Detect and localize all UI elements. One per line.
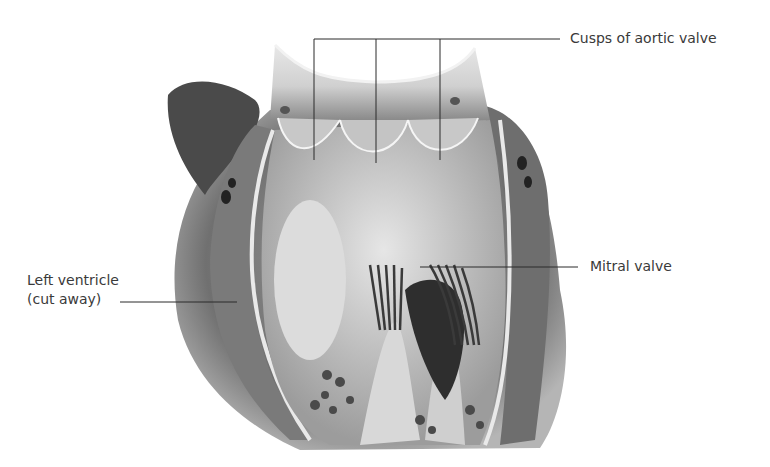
heart-illustration (0, 0, 770, 467)
septum (274, 200, 346, 360)
label-left-ventricle: Left ventricle (27, 272, 119, 289)
label-mitral-valve: Mitral valve (590, 258, 672, 275)
heart-diagram: Cusps of aortic valve Mitral valve Left … (0, 0, 770, 467)
label-cusps-of-aortic-valve: Cusps of aortic valve (570, 30, 717, 47)
label-left-ventricle-cut-away: (cut away) (27, 291, 101, 308)
